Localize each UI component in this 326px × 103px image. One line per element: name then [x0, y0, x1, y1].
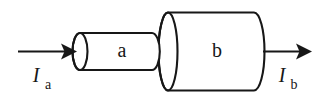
output-current-label: I b — [278, 64, 298, 92]
inner-cylinder-label: a — [118, 39, 127, 61]
input-current-symbol: I — [32, 64, 41, 86]
input-current-label: I a — [32, 64, 52, 92]
cylinder-current-diagram: a b I a I b — [0, 0, 326, 103]
figure-canvas: a b I a I b — [0, 0, 326, 103]
output-current-symbol: I — [278, 64, 287, 86]
outer-cylinder-label: b — [212, 39, 222, 61]
output-current-subscript: b — [291, 77, 298, 92]
output-current-arrow — [263, 44, 312, 60]
input-current-arrow — [18, 44, 77, 60]
input-current-subscript: a — [45, 77, 52, 92]
inner-cylinder-group — [73, 33, 160, 70]
